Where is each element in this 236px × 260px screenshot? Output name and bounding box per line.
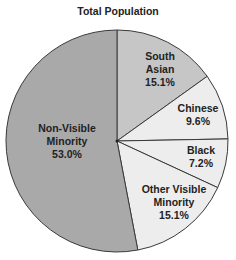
label-chinese: Chinese 9.6%	[168, 102, 228, 128]
label-black: Black 7.2%	[176, 144, 226, 170]
label-non-visible-minority: Non-Visible Minority 53.0%	[30, 122, 104, 161]
pie-center-dot	[116, 140, 119, 143]
label-other-visible-minority: Other Visible Minority 15.1%	[128, 183, 220, 222]
label-south-asian: South Asian 15.1%	[130, 50, 190, 89]
